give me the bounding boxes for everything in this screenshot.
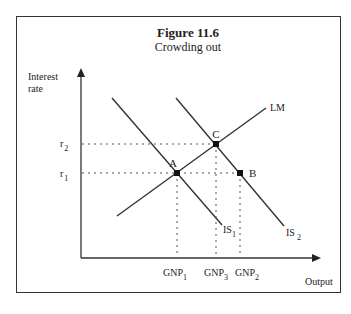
y-axis-label-line1: Interest <box>28 71 58 82</box>
y-axis-arrow-icon <box>77 68 85 77</box>
is-lm-diagram: Figure 11.6 Crowding out Interest rate A… <box>0 0 351 314</box>
gnp1-label: GNP1 <box>163 267 187 282</box>
r2-label: r2 <box>60 138 68 153</box>
y-axis-label-line2: rate <box>28 83 44 94</box>
point-b-label: B <box>249 167 256 179</box>
x-axis-arrow-icon <box>312 254 321 262</box>
point-a-label: A <box>169 157 177 169</box>
x-axis-label: Output <box>305 276 333 287</box>
axes <box>77 68 321 262</box>
is2-label: IS2 <box>286 227 301 242</box>
figure-title: Figure 11.6 <box>157 25 219 40</box>
point-c-marker <box>213 141 219 147</box>
is1-curve <box>112 98 222 225</box>
gnp2-label: GNP2 <box>235 267 259 282</box>
lm-label: LM <box>270 102 285 113</box>
lm-curve <box>117 108 266 216</box>
r1-label: r1 <box>60 168 68 183</box>
curves <box>112 98 284 226</box>
point-b-marker <box>237 170 243 176</box>
figure-subtitle: Crowding out <box>155 40 222 54</box>
point-a-marker <box>174 170 180 176</box>
is1-label: IS1 <box>223 224 236 239</box>
guide-lines <box>82 144 240 257</box>
point-c-label: C <box>212 128 219 140</box>
gnp3-label: GNP3 <box>204 267 228 282</box>
